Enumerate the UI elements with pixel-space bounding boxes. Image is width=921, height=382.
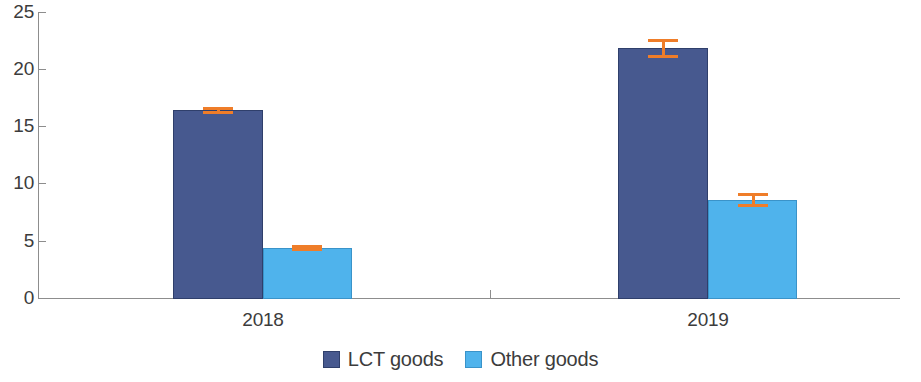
chart-legend: LCT goods Other goods bbox=[0, 348, 921, 370]
error-bar-cap-bottom bbox=[738, 204, 768, 207]
plot-area: 25 20 15 10 5 0 2018 2019 bbox=[0, 0, 921, 310]
error-bar-other-goods-2019 bbox=[738, 193, 768, 207]
x-tick-label-2019: 2019 bbox=[648, 308, 768, 332]
y-tick-label: 0 bbox=[4, 287, 34, 309]
y-tick-25: 25 bbox=[0, 12, 46, 13]
error-bar-lct-goods-2018 bbox=[203, 107, 233, 114]
y-tick-label: 20 bbox=[4, 58, 34, 80]
bar-chart: 25 20 15 10 5 0 2018 2019 bbox=[0, 0, 921, 382]
y-tick-mark bbox=[38, 183, 46, 184]
y-axis-line bbox=[38, 12, 39, 299]
error-bar-cap-bottom bbox=[203, 111, 233, 114]
y-tick-mark bbox=[38, 241, 46, 242]
y-tick-mark bbox=[38, 126, 46, 127]
y-tick-10: 10 bbox=[0, 183, 46, 184]
y-tick-mark bbox=[38, 69, 46, 70]
y-tick-15: 15 bbox=[0, 126, 46, 127]
y-tick-label: 5 bbox=[4, 230, 34, 252]
error-bar-other-goods-2018 bbox=[292, 245, 322, 251]
error-bar-cap-top bbox=[203, 107, 233, 110]
y-tick-5: 5 bbox=[0, 241, 46, 242]
y-tick-label: 25 bbox=[4, 1, 34, 23]
error-bar-cap-bottom bbox=[292, 248, 322, 251]
legend-item-other-goods[interactable]: Other goods bbox=[465, 348, 598, 370]
legend-item-lct-goods[interactable]: LCT goods bbox=[323, 348, 444, 370]
error-bar-cap-bottom bbox=[648, 55, 678, 58]
error-bar-cap-top bbox=[648, 39, 678, 42]
legend-swatch-icon bbox=[323, 351, 340, 368]
y-tick-20: 20 bbox=[0, 69, 46, 70]
y-tick-label: 10 bbox=[4, 172, 34, 194]
legend-swatch-icon bbox=[465, 351, 482, 368]
bar-lct-goods-2019[interactable] bbox=[618, 48, 708, 299]
legend-label: LCT goods bbox=[348, 348, 444, 370]
y-tick-label: 15 bbox=[4, 115, 34, 137]
legend-label: Other goods bbox=[490, 348, 598, 370]
x-tick-label-2018: 2018 bbox=[203, 308, 323, 332]
error-bar-lct-goods-2019 bbox=[648, 39, 678, 58]
bar-other-goods-2019[interactable] bbox=[708, 200, 797, 299]
x-axis-center-tick bbox=[490, 290, 491, 299]
bar-lct-goods-2018[interactable] bbox=[173, 110, 263, 299]
error-bar-cap-top bbox=[738, 193, 768, 196]
y-tick-mark bbox=[38, 12, 46, 13]
bar-other-goods-2018[interactable] bbox=[263, 248, 352, 299]
